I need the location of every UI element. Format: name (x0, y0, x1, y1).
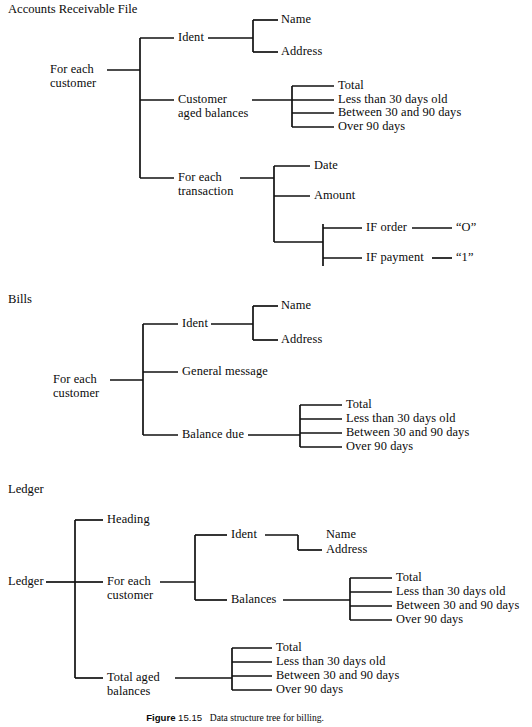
node-ledger-total-aged-item-total: Total (276, 641, 302, 655)
node-bills-for-each-customer: For each customer (53, 372, 99, 400)
node-ledger-balances-item-less-than-30: Less than 30 days old (396, 585, 505, 599)
section-heading-bills: Bills (8, 292, 32, 307)
node-ledger-total-aged-balances: Total aged balances (107, 670, 160, 698)
section-heading-ledger: Ledger (8, 482, 44, 497)
node-ar-if-order: IF order (366, 221, 407, 235)
node-ar-ident: Ident (178, 31, 204, 45)
node-ar-for-each-customer: For each customer (50, 62, 96, 90)
node-ledger-balances-item-total: Total (396, 571, 422, 585)
node-ledger-balances-item-over-90: Over 90 days (396, 613, 463, 627)
node-ledger-heading: Heading (107, 513, 150, 527)
node-ledger-root: Ledger (8, 575, 44, 589)
figure-caption-label: Figure (146, 712, 175, 723)
node-bills-address: Address (281, 333, 322, 347)
node-ar-date: Date (314, 159, 338, 173)
node-ar-address: Address (281, 45, 322, 59)
node-bills-balance-item-total: Total (346, 398, 372, 412)
figure-caption-text: Data structure tree for billing. (210, 712, 324, 723)
node-ar-aged-item-over-90: Over 90 days (338, 120, 405, 134)
node-bills-balance-due: Balance due (182, 428, 244, 442)
node-ledger-address: Address (326, 543, 367, 557)
node-ar-if-payment-value: “1” (456, 251, 474, 265)
node-ar-aged-item-between-30-and-90: Between 30 and 90 days (338, 106, 461, 120)
node-ledger-for-each-customer: For each customer (107, 574, 153, 602)
figure-caption-number: 15.15 (178, 712, 202, 723)
node-ar-aged-item-total: Total (338, 79, 364, 93)
section-heading-accounts-receivable-file: Accounts Receivable File (8, 2, 137, 17)
node-bills-ident: Ident (182, 317, 208, 331)
node-bills-balance-item-over-90: Over 90 days (346, 440, 413, 454)
node-ledger-balances-item-between-30-and-90: Between 30 and 90 days (396, 599, 519, 613)
node-ledger-total-aged-item-between-30-and-90: Between 30 and 90 days (276, 669, 399, 683)
node-ledger-total-aged-item-less-than-30: Less than 30 days old (276, 655, 385, 669)
node-ar-if-payment: IF payment (366, 251, 424, 265)
node-ar-if-order-value: “O” (456, 221, 476, 235)
node-bills-balance-item-less-than-30: Less than 30 days old (346, 412, 455, 426)
node-ledger-total-aged-item-over-90: Over 90 days (276, 683, 343, 697)
node-ledger-ident: Ident (231, 528, 257, 542)
node-ar-for-each-transaction: For each transaction (178, 170, 233, 198)
node-ar-amount: Amount (314, 189, 355, 203)
node-ar-name: Name (281, 13, 311, 27)
node-bills-balance-item-between-30-and-90: Between 30 and 90 days (346, 426, 469, 440)
figure-caption: Figure 15.15 Data structure tree for bil… (136, 701, 324, 727)
node-bills-name: Name (281, 299, 311, 313)
node-ledger-balances: Balances (231, 593, 277, 607)
node-ledger-name: Name (326, 528, 356, 542)
node-bills-general-message: General message (182, 365, 268, 379)
node-ar-customer-aged-balances: Customer aged balances (178, 92, 248, 120)
